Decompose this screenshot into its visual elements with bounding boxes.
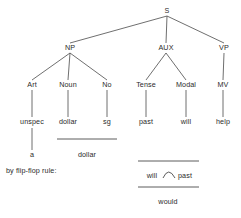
flip-flop-output-would: would (158, 198, 177, 206)
tree-node-s: S (165, 7, 170, 15)
flip-flop-input-past: past (178, 172, 192, 180)
edge-aux-to-modal (166, 53, 186, 80)
tree-terminal-unspec: unspec (20, 118, 44, 126)
tree-terminal-help: help (216, 118, 230, 126)
tree-terminal-will: will (181, 118, 191, 126)
flip-flop-input-will: will (147, 172, 157, 180)
derived-form-a: a (30, 151, 34, 159)
tree-node-mv: MV (218, 81, 229, 89)
tree-terminal-past: past (139, 118, 153, 126)
syntax-tree-figure: S NP AUX VP Art Noun No Tense Modal MV u… (0, 0, 241, 218)
tree-node-noun: Noun (59, 81, 77, 89)
edge-s-to-vp (167, 16, 224, 43)
edge-vp-to-mv (223, 53, 224, 80)
edge-np-to-art (32, 53, 70, 80)
edge-np-to-noun (68, 53, 70, 80)
edge-s-to-aux (166, 16, 167, 43)
flipflop-hook-icon (163, 172, 175, 178)
edge-aux-to-tense (146, 53, 166, 80)
tree-node-art: Art (27, 81, 37, 89)
tree-lines-canvas (0, 0, 241, 218)
tree-terminal-dollar: dollar (59, 118, 77, 126)
tree-node-np: NP (65, 44, 75, 52)
flip-flop-rule-caption: by flip-flop rule: (6, 167, 57, 175)
tree-terminal-sg: sg (103, 118, 111, 126)
edge-np-to-no (70, 53, 107, 80)
tree-node-vp: VP (219, 44, 229, 52)
tree-node-tense: Tense (136, 81, 156, 89)
tree-node-no: No (102, 81, 111, 89)
edge-s-to-np (70, 16, 167, 43)
tree-node-modal: Modal (176, 81, 196, 89)
derived-form-dollar: dollar (78, 151, 96, 159)
tree-node-aux: AUX (158, 44, 173, 52)
